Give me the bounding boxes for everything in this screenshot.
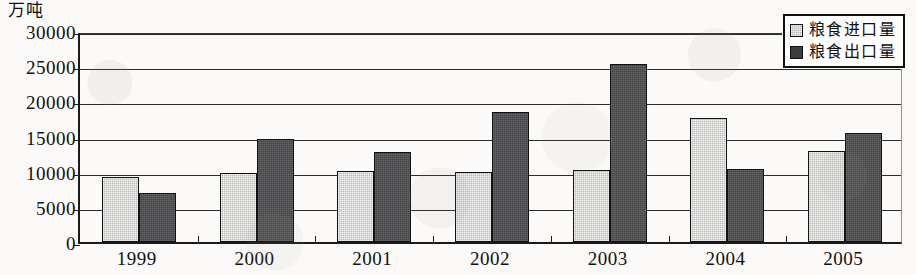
bar-export-2004 [727,169,764,242]
y-axis-tick-mark [74,245,80,246]
y-axis-tick-mark [74,34,80,35]
x-axis-tick-label-2000: 2000 [196,248,314,270]
y-axis-tick-labels: 050001000015000200002500030000 [0,0,76,275]
chart-legend: 粮食进口量 粮食出口量 [783,14,906,68]
bar-import-2004 [690,118,727,242]
legend-label-import: 粮食进口量 [809,21,897,39]
x-axis-tick-mark [551,236,552,243]
x-axis-tick-label-2004: 2004 [667,248,785,270]
x-axis-tick-label-2002: 2002 [431,248,549,270]
bar-import-2002 [455,172,492,242]
y-axis-tick-label: 15000 [0,129,76,148]
x-axis-tick-mark [786,236,787,243]
plot-area [78,33,902,244]
legend-swatch-import-icon [790,24,803,37]
y-axis-tick-mark [74,104,80,105]
bar-export-1999 [139,193,176,242]
gridline [80,104,901,105]
legend-swatch-export-icon [790,46,803,59]
legend-item-import[interactable]: 粮食进口量 [790,19,897,41]
x-axis-tick-mark [315,236,316,243]
y-axis-tick-mark [74,140,80,141]
bar-export-2002 [492,112,529,242]
gridline [80,69,901,70]
bar-import-2005 [808,151,845,242]
x-axis-tick-label-2001: 2001 [313,248,431,270]
y-axis-tick-mark [74,210,80,211]
x-axis-tick-label-2003: 2003 [549,248,667,270]
y-axis-tick-label: 20000 [0,93,76,112]
y-axis-tick-label: 25000 [0,58,76,77]
x-axis-tick-mark [669,236,670,243]
gridline [80,34,901,35]
y-axis-tick-label: 5000 [0,199,76,218]
x-axis-tick-label-2005: 2005 [784,248,902,270]
bar-chart-figure: 万吨 050001000015000200002500030000 199920… [0,0,916,275]
y-axis-tick-label: 30000 [0,23,76,42]
gridline [80,140,901,141]
bar-import-2003 [573,170,610,242]
bar-export-2005 [845,133,882,242]
bar-import-2000 [220,173,257,242]
bar-export-2000 [257,139,294,242]
bar-import-2001 [337,171,374,242]
bar-export-2003 [610,64,647,242]
x-axis-tick-labels: 1999200020012002200320042005 [78,248,902,275]
legend-item-export[interactable]: 粮食出口量 [790,41,897,63]
y-axis-tick-label: 0 [0,234,76,253]
x-axis-tick-label-1999: 1999 [78,248,196,270]
x-axis-tick-mark [198,236,199,243]
y-axis-tick-label: 10000 [0,164,76,183]
y-axis-tick-mark [74,69,80,70]
bar-export-2001 [374,152,411,242]
x-axis-tick-mark [433,236,434,243]
y-axis-tick-mark [74,175,80,176]
legend-label-export: 粮食出口量 [809,43,897,61]
bar-import-1999 [102,177,139,242]
